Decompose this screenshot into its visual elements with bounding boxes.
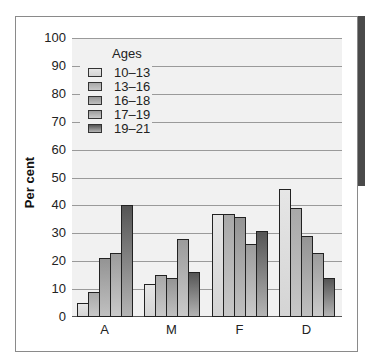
legend-label: 10–13 bbox=[114, 65, 150, 80]
y-tick-label: 100 bbox=[26, 30, 66, 45]
gridline bbox=[72, 178, 342, 179]
legend: Ages 10–1313–1616–1817–1919–21 bbox=[80, 44, 152, 136]
legend-swatch bbox=[88, 68, 102, 77]
gridline bbox=[72, 150, 342, 151]
x-tick-label: A bbox=[90, 322, 120, 337]
y-tick-label: 20 bbox=[26, 253, 66, 268]
legend-swatch bbox=[88, 82, 102, 91]
legend-swatch bbox=[88, 96, 102, 105]
legend-label: 19–21 bbox=[114, 121, 150, 136]
legend-swatch bbox=[88, 110, 102, 119]
bar-F-4 bbox=[256, 231, 268, 317]
y-tick-label: 10 bbox=[26, 281, 66, 296]
legend-title: Ages bbox=[112, 46, 142, 61]
x-tick-label: D bbox=[292, 322, 322, 337]
y-tick-label: 0 bbox=[26, 309, 66, 324]
legend-label: 13–16 bbox=[114, 79, 150, 94]
legend-label: 16–18 bbox=[114, 93, 150, 108]
y-tick-label: 90 bbox=[26, 58, 66, 73]
gridline bbox=[72, 205, 342, 206]
y-axis-label: Per cent bbox=[22, 148, 37, 218]
page-edge-decoration bbox=[358, 16, 365, 186]
bar-A-4 bbox=[121, 205, 133, 317]
x-tick-label: M bbox=[157, 322, 187, 337]
legend-swatch bbox=[88, 124, 102, 133]
legend-label: 17–19 bbox=[114, 107, 150, 122]
x-tick-label: F bbox=[225, 322, 255, 337]
gridline bbox=[72, 38, 342, 39]
y-tick-label: 30 bbox=[26, 225, 66, 240]
bar-D-4 bbox=[323, 278, 335, 317]
y-tick-label: 80 bbox=[26, 86, 66, 101]
bar-M-4 bbox=[188, 272, 200, 317]
y-tick-label: 70 bbox=[26, 114, 66, 129]
